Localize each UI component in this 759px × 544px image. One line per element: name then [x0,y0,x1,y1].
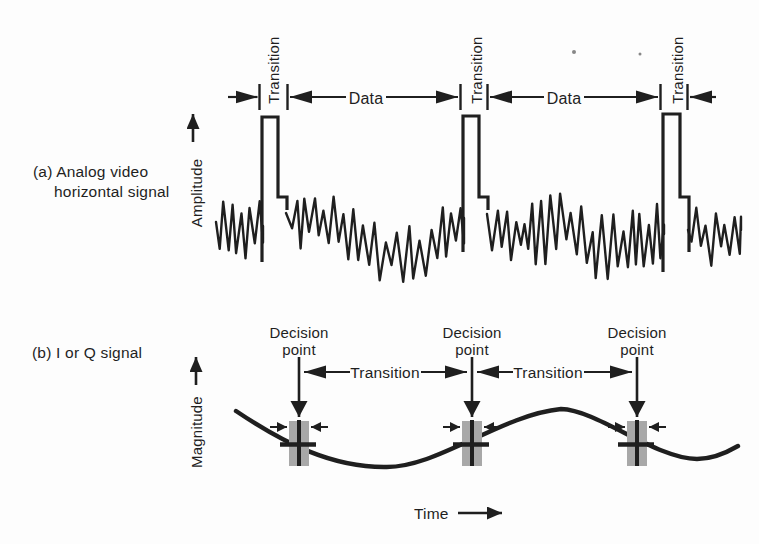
signal-diagram: (a) Analog video horizontal signal Ampli… [0,0,759,544]
decision-label-line1: Decision [269,324,328,341]
decision-label-line2: point [282,341,316,358]
transition-label-3: Transition [669,36,686,103]
time-axis-label: Time [414,505,449,522]
transition-label-1: Transition [265,36,282,103]
transition-span-b-label: Transition [513,364,582,381]
amplitude-axis-label: Amplitude [188,159,205,228]
time-axis: Time [414,505,502,522]
transition-span-b: Transition [477,364,632,381]
decision-marker-2: Decision point [442,324,501,466]
decision-label-line2: point [620,341,654,358]
decision-marker-1: Decision point [269,324,328,466]
figure-canvas: (a) Analog video horizontal signal Ampli… [0,0,759,544]
transition-label-2: Transition [468,36,485,103]
transition-span-a-label: Transition [350,364,419,381]
iq-signal-curve [236,409,738,467]
decision-label-line1: Decision [442,324,501,341]
magnitude-axis-label: Magnitude [188,396,205,468]
sync-pulse-3 [663,114,689,272]
panel-a-caption-line2: horizontal signal [54,183,169,200]
decision-marker-3: Decision point [607,324,666,466]
decision-label-line2: point [455,341,489,358]
panel-a-caption-line1: (a) Analog video [33,163,148,180]
sync-pulse-1 [262,117,287,262]
panel-a-analog-video-signal: (a) Analog video horizontal signal Ampli… [33,36,741,282]
scan-speck-1 [572,50,576,54]
decision-label-line1: Decision [607,324,666,341]
scan-speck-2 [639,53,642,56]
transition-span-a: Transition [304,364,467,381]
panel-b-caption: (b) I or Q signal [32,344,142,361]
data-label-1: Data [349,90,384,107]
panel-b-iq-signal: (b) I or Q signal Magnitude Transition T… [32,324,738,468]
sync-pulse-2 [463,116,488,252]
data-label-2: Data [547,90,582,107]
